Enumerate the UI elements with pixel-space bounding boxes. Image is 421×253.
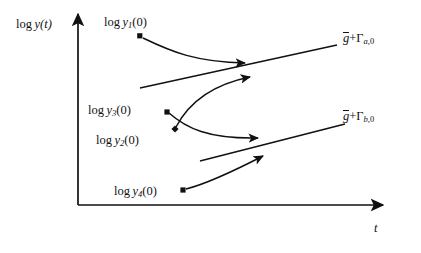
label-y2-arg: (0) [124,133,139,147]
label-b-sub-index: 0 [370,114,374,124]
label-log-y4-initial: log y4(0) [114,185,157,199]
marker-y1-square [137,33,142,38]
marker-y3-square [164,109,169,114]
label-y3-arg: (0) [116,103,131,117]
label-y1-log: log [104,15,120,29]
label-a-sub-index: 0 [370,36,374,46]
label-log-y3-initial: log y3(0) [88,104,131,118]
label-b-gamma: Γ [356,109,363,123]
x-axis-label: t [374,222,377,235]
y-axis-label: log y(t) [16,18,52,31]
label-y4-log: log [114,184,130,198]
label-log-y2-initial: log y2(0) [96,134,139,148]
label-attractor-a: g+Γa,0 [343,32,374,46]
y-axis-label-arg: (t) [40,17,52,31]
y-axis-label-log: log [16,17,32,31]
label-log-y1-initial: log y1(0) [104,16,147,30]
label-y3-log: log [88,103,104,117]
label-a-gsym: g [343,32,349,45]
trajectory-y4-to-attractor-b [186,156,263,189]
convergence-diagram: log y(t) t log y1(0) log y3(0) log y2(0)… [0,0,421,253]
label-y1-arg: (0) [132,15,147,29]
label-b-gsym: g [343,110,349,123]
attractor-b-trunk-line [200,124,345,161]
marker-y4-square [180,187,185,192]
trajectory-y1-to-attractor-a [143,38,245,63]
label-attractor-b: g+Γb,0 [343,110,374,124]
label-y2-log: log [96,133,112,147]
label-y4-arg: (0) [142,184,157,198]
label-a-gamma: Γ [356,31,363,45]
trajectory-y2-to-attractor-a [176,77,250,127]
marker-y2-diamond [171,125,178,132]
attractor-a-trunk-line [140,45,337,88]
